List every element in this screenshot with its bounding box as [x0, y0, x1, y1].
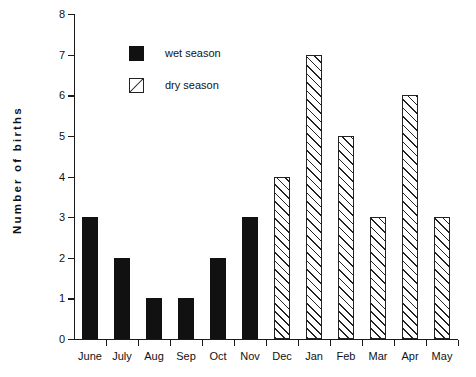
x-tick-label-june: June [78, 350, 102, 362]
x-tick-label-dec: Dec [272, 350, 292, 362]
y-tick-label: 5 [59, 130, 65, 141]
x-tick-label-aug: Aug [144, 350, 164, 362]
x-tick-mark [202, 340, 203, 346]
y-tick-label: 0 [59, 334, 65, 345]
x-tick-mark [362, 340, 363, 346]
y-tick-mark [68, 217, 74, 218]
y-tick-label: 1 [59, 293, 65, 304]
legend-label: dry season [165, 79, 219, 91]
x-tick-label-july: July [112, 350, 132, 362]
legend-swatch-wet [129, 46, 144, 61]
y-tick-mark [68, 177, 74, 178]
x-tick-mark [394, 340, 395, 346]
chart-legend: wet seasondry season [129, 42, 269, 106]
x-tick-mark [106, 340, 107, 346]
bar-sep [178, 298, 195, 339]
bar-chart: Number of births 012345678 JuneJulyAugSe… [0, 0, 476, 377]
x-tick-label-nov: Nov [240, 350, 260, 362]
x-tick-mark [170, 340, 171, 346]
y-tick-mark [68, 55, 74, 56]
legend-item-wet: wet season [129, 42, 269, 64]
y-axis-title: Number of births [0, 0, 34, 340]
y-tick-label: 6 [59, 90, 65, 101]
y-tick-mark [68, 136, 74, 137]
bar-nov [242, 217, 259, 339]
bar-feb [338, 136, 355, 339]
x-tick-mark [138, 340, 139, 346]
x-tick-label-sep: Sep [176, 350, 196, 362]
y-tick-label: 7 [59, 49, 65, 60]
legend-swatch-dry [129, 78, 144, 93]
x-tick-label-feb: Feb [337, 350, 356, 362]
y-tick-mark [68, 14, 74, 15]
legend-label: wet season [165, 47, 221, 59]
bar-apr [402, 95, 419, 339]
y-tick-label: 2 [59, 252, 65, 263]
bar-mar [370, 217, 387, 339]
legend-item-dry: dry season [129, 74, 269, 96]
y-tick-label: 8 [59, 9, 65, 20]
bar-oct [210, 258, 227, 339]
bar-may [434, 217, 451, 339]
x-tick-label-mar: Mar [369, 350, 388, 362]
y-axis-title-text: Number of births [11, 106, 23, 234]
y-tick-mark [68, 339, 74, 340]
y-tick-mark [68, 258, 74, 259]
bar-june [82, 217, 99, 339]
x-tick-mark [234, 340, 235, 346]
x-tick-mark [266, 340, 267, 346]
x-tick-mark [330, 340, 331, 346]
y-tick-mark [68, 298, 74, 299]
y-tick-label: 3 [59, 212, 65, 223]
x-tick-label-oct: Oct [209, 350, 226, 362]
x-tick-mark [298, 340, 299, 346]
y-tick-mark [68, 95, 74, 96]
y-axis-line [74, 14, 75, 340]
x-tick-mark [426, 340, 427, 346]
bar-jan [306, 55, 323, 339]
bar-dec [274, 177, 291, 340]
y-tick-label: 4 [59, 171, 65, 182]
bar-july [114, 258, 131, 339]
x-tick-label-jan: Jan [305, 350, 323, 362]
x-tick-label-may: May [432, 350, 453, 362]
x-tick-mark [458, 340, 459, 346]
x-tick-label-apr: Apr [401, 350, 418, 362]
bar-aug [146, 298, 163, 339]
